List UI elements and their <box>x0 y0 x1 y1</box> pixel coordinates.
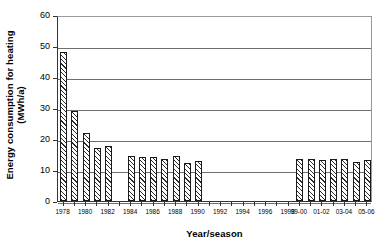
x-tick-label: 03-04 <box>336 208 352 216</box>
x-tick-mark <box>198 202 199 206</box>
bar <box>195 161 202 201</box>
x-tick-label: 01-02 <box>313 208 329 216</box>
y-tick-label: 0 <box>26 197 50 206</box>
bar <box>341 159 348 201</box>
x-tick-mark <box>321 202 322 206</box>
x-tick-mark <box>63 202 64 206</box>
x-tick-mark <box>310 202 311 206</box>
x-tick-mark <box>333 202 334 206</box>
x-tick-label: 1984 <box>123 208 137 216</box>
x-tick-label: 99-00 <box>291 208 307 216</box>
x-tick-mark <box>209 202 210 206</box>
bar <box>308 159 315 201</box>
x-tick-mark <box>276 202 277 206</box>
bar <box>161 159 168 201</box>
x-tick-mark <box>254 202 255 206</box>
x-tick-mark <box>344 202 345 206</box>
x-tick-label: 1982 <box>101 208 115 216</box>
bar <box>94 148 101 201</box>
x-tick-mark <box>288 202 289 206</box>
x-tick-label: 1980 <box>78 208 92 216</box>
bar <box>128 156 135 201</box>
x-tick-mark <box>119 202 120 206</box>
bar <box>184 163 191 201</box>
bar <box>353 162 360 201</box>
x-tick-mark <box>96 202 97 206</box>
x-tick-mark <box>85 202 86 206</box>
y-tick-label: 40 <box>26 73 50 82</box>
bar <box>364 160 371 201</box>
y-axis-title-line2: (MWh/a) <box>15 30 26 179</box>
x-tick-label: 05-06 <box>358 208 374 216</box>
x-tick-mark <box>243 202 244 206</box>
x-tick-mark <box>265 202 266 206</box>
x-tick-mark <box>141 202 142 206</box>
x-tick-mark <box>220 202 221 206</box>
bar <box>60 52 67 201</box>
bar-chart: Energy consumption for heating (MWh/a) 0… <box>0 0 380 251</box>
x-tick-mark <box>153 202 154 206</box>
x-tick-mark <box>231 202 232 206</box>
y-axis-title-line1: Energy consumption for heating <box>4 30 15 179</box>
bar <box>319 160 326 201</box>
x-tick-label: 1990 <box>191 208 205 216</box>
bar <box>150 157 157 201</box>
x-tick-label: 1988 <box>168 208 182 216</box>
bar <box>139 157 146 201</box>
x-tick-label: 1978 <box>56 208 70 216</box>
x-tick-mark <box>355 202 356 206</box>
x-axis-title: Year/season <box>57 228 372 239</box>
x-tick-mark <box>299 202 300 206</box>
y-tick-label: 60 <box>26 11 50 20</box>
x-tick-mark <box>74 202 75 206</box>
bar <box>296 159 303 201</box>
x-tick-label: 1996 <box>258 208 272 216</box>
bar <box>71 111 78 201</box>
x-tick-mark <box>366 202 367 206</box>
y-tick-label: 30 <box>26 104 50 113</box>
x-tick-mark <box>130 202 131 206</box>
x-tick-label: 1994 <box>236 208 250 216</box>
x-tick-mark <box>175 202 176 206</box>
bar-series <box>58 17 371 201</box>
y-tick-label: 10 <box>26 166 50 175</box>
bar <box>173 156 180 201</box>
x-tick-mark <box>186 202 187 206</box>
x-tick-mark <box>164 202 165 206</box>
bar <box>330 159 337 201</box>
y-tick-label: 50 <box>26 42 50 51</box>
y-tick-label: 20 <box>26 135 50 144</box>
bar <box>105 146 112 201</box>
bar <box>83 133 90 201</box>
x-tick-label: 1992 <box>213 208 227 216</box>
x-tick-mark <box>108 202 109 206</box>
x-tick-label: 1986 <box>146 208 160 216</box>
plot-area <box>57 16 372 202</box>
